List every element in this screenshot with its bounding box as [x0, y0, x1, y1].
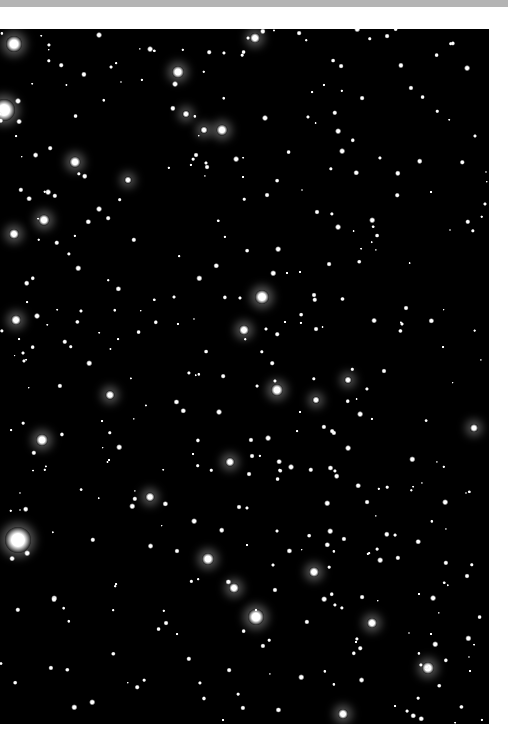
faint-star [465, 574, 470, 579]
faint-star [437, 684, 441, 688]
faint-star [329, 592, 334, 597]
faint-star [47, 43, 51, 47]
faint-star [62, 339, 67, 344]
faint-star [395, 170, 400, 175]
faint-star [14, 135, 17, 138]
faint-star [161, 525, 164, 528]
faint-star [275, 332, 280, 337]
faint-star [312, 292, 317, 297]
faint-star [0, 32, 3, 35]
faint-star [365, 387, 369, 391]
faint-star [415, 539, 421, 545]
faint-star [139, 48, 141, 50]
faint-star [359, 677, 365, 683]
faint-star [305, 39, 307, 41]
faint-star [299, 321, 302, 324]
faint-star [0, 662, 3, 666]
bright-star [6, 36, 22, 52]
faint-star [335, 224, 341, 230]
faint-star [101, 420, 104, 423]
faint-star [269, 673, 271, 675]
faint-star [442, 499, 448, 505]
faint-star [454, 721, 457, 724]
faint-star [98, 332, 100, 334]
faint-star [117, 197, 122, 202]
faint-star [221, 374, 226, 379]
faint-star [451, 41, 455, 45]
faint-star [23, 506, 29, 512]
faint-star [111, 652, 115, 656]
faint-star [355, 398, 358, 401]
faint-star [333, 469, 337, 473]
faint-star [408, 632, 410, 634]
faint-star [265, 435, 271, 441]
faint-star [18, 187, 23, 192]
faint-star [438, 612, 440, 614]
faint-star [31, 469, 34, 472]
faint-star [77, 172, 81, 176]
faint-star [222, 51, 226, 55]
faint-star [72, 704, 77, 709]
faint-star [300, 549, 302, 551]
faint-star [472, 643, 475, 646]
bright-star [338, 709, 348, 719]
faint-star [85, 219, 90, 224]
faint-star [75, 265, 81, 271]
bright-star [11, 315, 21, 325]
faint-star [405, 709, 409, 713]
faint-star [89, 699, 95, 705]
faint-star [242, 156, 245, 159]
faint-star [436, 461, 438, 463]
faint-star [241, 706, 246, 711]
faint-star [9, 509, 13, 513]
faint-star [258, 454, 261, 457]
faint-star [16, 119, 22, 125]
faint-star [102, 99, 106, 103]
faint-star [275, 246, 281, 252]
faint-star [56, 309, 59, 312]
faint-star [354, 170, 360, 176]
faint-star [65, 668, 69, 672]
faint-star [304, 620, 309, 625]
faint-star [298, 675, 304, 681]
faint-star [222, 718, 225, 721]
faint-star [329, 166, 333, 170]
faint-star [79, 488, 83, 492]
faint-star [260, 29, 265, 34]
faint-star [408, 86, 413, 91]
faint-star [328, 565, 332, 569]
bright-star [345, 377, 352, 384]
faint-star [395, 555, 400, 560]
faint-star [255, 384, 259, 388]
faint-star [287, 548, 292, 553]
faint-star [331, 58, 336, 63]
faint-star [62, 606, 66, 610]
faint-star [398, 329, 402, 333]
faint-star [108, 431, 112, 435]
faint-star [410, 489, 412, 491]
faint-star [196, 438, 200, 442]
faint-star [223, 295, 227, 299]
faint-star [167, 166, 170, 169]
faint-star [468, 656, 470, 658]
faint-star [223, 235, 226, 238]
faint-star [178, 255, 181, 258]
faint-star [314, 326, 319, 331]
faint-star [113, 309, 117, 313]
faint-star [370, 241, 373, 244]
faint-star [357, 411, 363, 417]
faint-star [409, 457, 414, 462]
faint-star [306, 115, 310, 119]
faint-star [86, 361, 92, 367]
faint-star [332, 683, 335, 686]
faint-star [24, 280, 30, 286]
faint-star [134, 490, 136, 492]
faint-star [276, 707, 281, 712]
faint-star [54, 240, 60, 246]
faint-star [132, 496, 137, 501]
faint-star [26, 196, 32, 202]
faint-star [333, 603, 337, 607]
bright-star [239, 325, 249, 335]
faint-star [340, 606, 344, 610]
faint-star [364, 500, 369, 505]
